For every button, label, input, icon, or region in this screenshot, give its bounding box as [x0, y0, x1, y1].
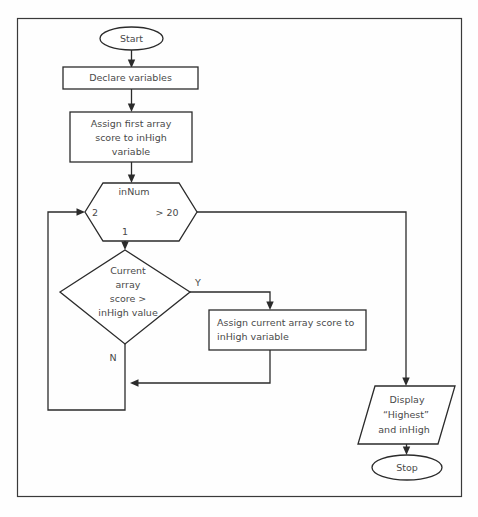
- edge-decision-yes: [190, 292, 274, 310]
- node-loop-hexagon: inNum 2 > 20 1: [85, 183, 197, 241]
- node-stop: Stop: [372, 455, 442, 480]
- edge-start-to-declare: [128, 50, 135, 68]
- node-decision: Current array score > inHigh value Y N: [60, 250, 201, 363]
- node-loop-hexagon-label: inNum: [118, 186, 149, 197]
- node-assign-first-array-line2: score to inHigh: [95, 132, 167, 143]
- node-start: Start: [100, 27, 163, 50]
- edge-loop-exit: [197, 212, 410, 386]
- node-decision-line3: score >: [110, 293, 147, 304]
- node-stop-label: Stop: [396, 462, 418, 473]
- node-loop-hexagon-bottom-label: 1: [122, 226, 128, 237]
- edge-assign-first-to-loop: [128, 162, 135, 183]
- node-assign-current: Assign current array score to inHigh var…: [209, 310, 366, 350]
- edge-assign-current-to-merge: [130, 350, 270, 387]
- node-assign-first-array: Assign first array score to inHigh varia…: [70, 112, 192, 162]
- node-assign-first-array-line3: variable: [112, 146, 150, 157]
- connector-group: [48, 50, 410, 455]
- edge-declare-to-assign-first: [128, 89, 135, 112]
- node-declare-variables-label: Declare variables: [89, 72, 172, 83]
- node-assign-first-array-line1: Assign first array: [91, 118, 172, 129]
- edge-display-to-stop: [403, 444, 410, 455]
- node-assign-current-line2: inHigh variable: [217, 331, 289, 342]
- flowchart-canvas: Start Declare variables Assign first arr…: [0, 0, 478, 517]
- node-decision-line4: inHigh value: [98, 307, 158, 318]
- node-display-line3: and inHigh: [378, 424, 429, 435]
- node-display-line2: “Highest”: [383, 409, 429, 420]
- flowchart-page: Start Declare variables Assign first arr…: [0, 0, 478, 517]
- node-decision-line2: array: [116, 279, 141, 290]
- node-display: Display “Highest” and inHigh: [358, 386, 455, 444]
- node-decision-line1: Current: [110, 265, 146, 276]
- decision-yes-label: Y: [194, 277, 201, 288]
- node-display-line1: Display: [389, 394, 424, 405]
- node-assign-current-line1: Assign current array score to: [217, 317, 355, 328]
- node-loop-hexagon-left-label: 2: [92, 207, 98, 218]
- decision-no-label: N: [109, 352, 116, 363]
- node-declare-variables: Declare variables: [63, 67, 198, 89]
- node-loop-hexagon-right-label: > 20: [155, 207, 178, 218]
- node-start-label: Start: [120, 33, 143, 44]
